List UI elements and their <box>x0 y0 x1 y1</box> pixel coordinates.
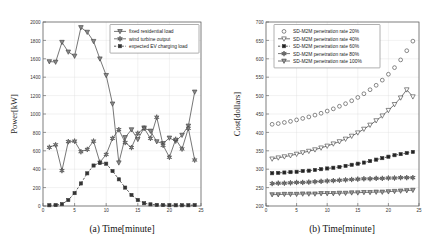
marker-sd-m2m-penetration-rate-60--8 <box>319 168 322 171</box>
figure-container: 0200400600800100012001400160018002000 05… <box>0 0 435 239</box>
marker-wind-turbine-output-17 <box>155 115 160 120</box>
y-tick-label-650: 650 <box>256 39 264 44</box>
panel-b-cost-chart: 200250300350400450500550600650700 051015… <box>218 0 435 239</box>
y-tick-label-200: 200 <box>33 186 41 191</box>
marker-sd-m2m-penetration-rate-40--13 <box>349 134 354 138</box>
marker-sd-m2m-penetration-rate-20--8 <box>319 111 323 115</box>
marker-expected-ev-charging-load-21 <box>180 204 183 207</box>
series-sd-m2m-penetration-rate-40- <box>270 88 415 161</box>
marker-fixed-residential-load-11 <box>117 161 122 165</box>
x-tick-label-0: 0 <box>42 208 45 213</box>
series-line-sd-m2m-penetration-rate-40- <box>272 90 413 159</box>
legend-label-sd-m2m-penetration-rate-100-: SD-M2M penetration rate 100% <box>293 59 362 64</box>
marker-sd-m2m-penetration-rate-60--14 <box>356 162 359 165</box>
marker-sd-m2m-penetration-rate-20--18 <box>380 78 384 82</box>
marker-expected-ev-charging-load-15 <box>143 202 146 205</box>
marker-fixed-residential-load-23 <box>192 90 197 94</box>
y-tick-label-1600: 1600 <box>30 57 41 62</box>
legend-label-expected-ev-charging-load: expected EV charging load <box>129 44 188 49</box>
marker-sd-m2m-penetration-rate-60--18 <box>381 157 384 160</box>
marker-sd-m2m-penetration-rate-20--21 <box>399 58 403 62</box>
marker-wind-turbine-output-0 <box>47 145 52 150</box>
marker-sd-m2m-penetration-rate-60--6 <box>307 169 310 172</box>
marker-sd-m2m-penetration-rate-20--20 <box>393 66 397 70</box>
marker-sd-m2m-penetration-rate-40--16 <box>368 123 373 127</box>
marker-wind-turbine-output-19 <box>167 155 172 160</box>
marker-sd-m2m-penetration-rate-20--2 <box>282 121 286 125</box>
series-line-sd-m2m-penetration-rate-80- <box>272 178 413 184</box>
marker-sd-m2m-penetration-rate-20--16 <box>368 88 372 92</box>
panel-a-caption: (a) Time[minute] <box>89 224 154 235</box>
y-tick-label-550: 550 <box>256 75 264 80</box>
marker-expected-ev-charging-load-3 <box>67 198 70 201</box>
y-tick-label-600: 600 <box>33 149 41 154</box>
marker-sd-m2m-penetration-rate-60--16 <box>368 160 371 163</box>
y-tick-label-500: 500 <box>256 94 264 99</box>
marker-sd-m2m-penetration-rate-60--22 <box>405 151 408 154</box>
x-tick-label-10: 10 <box>104 208 110 213</box>
y-tick-label-2000: 2000 <box>30 20 41 25</box>
legend-item-sd-m2m-penetration-rate-20-[interactable]: SD-M2M penetration rate 20% <box>282 29 360 34</box>
marker-fixed-residential-load-5 <box>79 26 84 30</box>
marker-sd-m2m-penetration-rate-20--17 <box>374 83 378 87</box>
marker-wind-turbine-output-14 <box>136 131 141 136</box>
x-tick-label-0: 0 <box>265 208 268 213</box>
marker-expected-ev-charging-load-11 <box>117 178 120 181</box>
panel-b-x-tick-labels: 0510152025 <box>265 208 422 213</box>
marker-sd-m2m-penetration-rate-60--3 <box>289 171 292 174</box>
marker-expected-ev-charging-load-7 <box>92 164 95 167</box>
series-wind-turbine-output <box>47 115 197 174</box>
marker-sd-m2m-penetration-rate-60--2 <box>283 171 286 174</box>
y-tick-label-1400: 1400 <box>30 75 41 80</box>
y-tick-label-200: 200 <box>256 204 264 209</box>
panel-b-caption: (b) Time[minute] <box>309 224 375 235</box>
marker-sd-m2m-penetration-rate-60--legend <box>282 45 285 48</box>
legend-label-wind-turbine-output: wind turbine output <box>129 37 171 42</box>
marker-wind-turbine-output-5 <box>79 149 84 154</box>
y-tick-label-600: 600 <box>256 57 264 62</box>
marker-sd-m2m-penetration-rate-20--0 <box>270 122 274 126</box>
marker-sd-m2m-penetration-rate-40--12 <box>343 137 348 141</box>
marker-sd-m2m-penetration-rate-40--14 <box>356 131 361 135</box>
marker-sd-m2m-penetration-rate-60--13 <box>350 163 353 166</box>
legend-label-sd-m2m-penetration-rate-40-: SD-M2M penetration rate 40% <box>293 37 360 42</box>
marker-expected-ev-charging-load-1 <box>54 203 57 206</box>
panel-b-svg: 200250300350400450500550600650700 051015… <box>218 0 435 239</box>
y-tick-label-1000: 1000 <box>30 112 41 117</box>
x-tick-label-25: 25 <box>198 208 204 213</box>
marker-fixed-residential-load-8 <box>98 57 103 61</box>
marker-sd-m2m-penetration-rate-60--5 <box>301 169 304 172</box>
marker-sd-m2m-penetration-rate-60--11 <box>338 165 341 168</box>
marker-sd-m2m-penetration-rate-40--0 <box>270 157 275 161</box>
series-expected-ev-charging-load <box>48 161 197 207</box>
marker-expected-ev-charging-load-13 <box>130 193 133 196</box>
panel-a-y-tick-labels: 0200400600800100012001400160018002000 <box>30 20 41 209</box>
x-tick-label-5: 5 <box>73 208 76 213</box>
marker-fixed-residential-load-10 <box>110 102 115 106</box>
marker-sd-m2m-penetration-rate-20--6 <box>307 115 311 119</box>
y-tick-label-700: 700 <box>256 20 264 25</box>
marker-sd-m2m-penetration-rate-60--17 <box>375 158 378 161</box>
marker-expected-ev-charging-load-8 <box>98 161 101 164</box>
marker-sd-m2m-penetration-rate-60--15 <box>362 161 365 164</box>
marker-sd-m2m-penetration-rate-60--23 <box>411 150 414 153</box>
marker-expected-ev-charging-load-4 <box>73 192 76 195</box>
marker-expected-ev-charging-load-9 <box>105 162 108 165</box>
x-tick-label-15: 15 <box>135 208 141 213</box>
marker-fixed-residential-load-4 <box>72 54 77 58</box>
marker-sd-m2m-penetration-rate-20--7 <box>313 113 317 117</box>
marker-wind-turbine-output-23 <box>192 157 197 162</box>
marker-sd-m2m-penetration-rate-20--11 <box>338 104 342 108</box>
panel-a-svg: 0200400600800100012001400160018002000 05… <box>0 0 217 239</box>
marker-sd-m2m-penetration-rate-20--legend <box>282 30 286 34</box>
marker-sd-m2m-penetration-rate-20--23 <box>411 39 415 43</box>
marker-expected-ev-charging-load-12 <box>124 186 127 189</box>
marker-expected-ev-charging-load-10 <box>111 169 114 172</box>
panel-b-y-tick-labels: 200250300350400450500550600650700 <box>256 20 264 209</box>
marker-sd-m2m-penetration-rate-20--12 <box>344 102 348 106</box>
marker-sd-m2m-penetration-rate-60--7 <box>313 168 316 171</box>
marker-fixed-residential-load-2 <box>60 40 65 44</box>
marker-expected-ev-charging-load-2 <box>60 203 63 206</box>
marker-sd-m2m-penetration-rate-20--13 <box>350 99 354 103</box>
marker-sd-m2m-penetration-rate-20--3 <box>289 119 293 123</box>
